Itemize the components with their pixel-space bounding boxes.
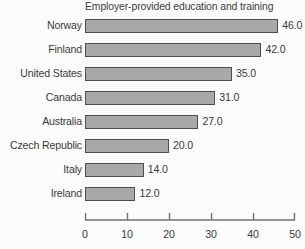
category-label: Czech Republic (0, 137, 82, 153)
bar-value-label: 12.0 (139, 185, 159, 202)
bar-value-label: 27.0 (202, 113, 222, 130)
bar (85, 163, 144, 177)
bar-row: Ireland12.0 (0, 185, 305, 209)
bar (85, 115, 198, 129)
bar-row: Finland42.0 (0, 41, 305, 65)
bar-value-label: 20.0 (173, 137, 193, 154)
category-label: Canada (0, 89, 82, 105)
plot-area: Norway46.0Finland42.0United States35.0Ca… (0, 17, 305, 213)
bar (85, 139, 169, 153)
bar (85, 187, 135, 201)
bar-value-label: 14.0 (148, 161, 168, 178)
bar-value-label: 46.0 (282, 17, 302, 34)
bar (85, 19, 278, 33)
bar-row: Czech Republic20.0 (0, 137, 305, 161)
category-label: Norway (0, 17, 82, 33)
category-label: Italy (0, 161, 82, 177)
category-label: Australia (0, 113, 82, 129)
bar-row: Australia27.0 (0, 113, 305, 137)
x-tick-label-30: 30 (196, 228, 226, 240)
chart-title: Employer-provided education and training (85, 1, 285, 12)
bar (85, 43, 261, 57)
bar-chart: Employer-provided education and training… (0, 0, 305, 249)
bar-row: Italy14.0 (0, 161, 305, 185)
category-label: United States (0, 65, 82, 81)
x-tick-label-0: 0 (70, 228, 100, 240)
bar-row: United States35.0 (0, 65, 305, 89)
bar-value-label: 31.0 (219, 89, 239, 106)
bar-row: Norway46.0 (0, 17, 305, 41)
category-label: Ireland (0, 185, 82, 201)
x-tick-label-20: 20 (154, 228, 184, 240)
x-tick-label-50: 50 (280, 228, 305, 240)
x-tick-label-10: 10 (112, 228, 142, 240)
category-label: Finland (0, 41, 82, 57)
bar-value-label: 42.0 (265, 41, 285, 58)
bar (85, 91, 215, 105)
x-tick-label-40: 40 (238, 228, 268, 240)
bar-value-label: 35.0 (236, 65, 256, 82)
bar (85, 67, 232, 81)
bar-row: Canada31.0 (0, 89, 305, 113)
